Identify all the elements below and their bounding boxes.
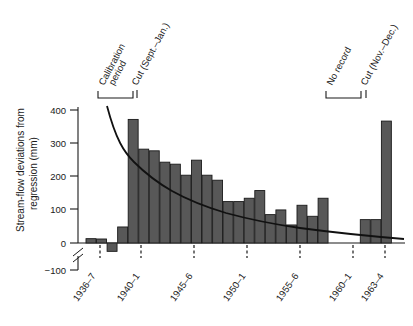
stream-flow-deviation-bar-chart: Stream-flow deviations from regression (…	[0, 0, 413, 326]
y-tick-label-minus100: −100	[45, 265, 66, 276]
bar	[160, 162, 170, 243]
bar	[128, 119, 138, 243]
x-axis-ticks	[100, 245, 385, 258]
x-tick-label-1936-7: 1936–7	[70, 271, 97, 303]
y-tick-label-400: 400	[50, 105, 66, 116]
chart-figure: Stream-flow deviations from regression (…	[0, 0, 413, 326]
y-tick-label-0: 0	[61, 238, 66, 249]
y-axis-title-line1: Stream-flow deviations from	[15, 108, 26, 232]
cut-nov-dec-label: Cut (Nov.–Dec.)	[358, 22, 399, 87]
y-tick-label-100: 100	[50, 204, 66, 215]
bar	[318, 198, 328, 243]
bar	[265, 215, 275, 243]
y-axis-title-line2: regression (mm)	[28, 137, 39, 210]
bar	[202, 175, 212, 243]
x-tick-label-1963-4: 1963–4	[358, 271, 385, 303]
x-tick-label-1945-6: 1945–6	[167, 271, 194, 303]
x-tick-label-1950-1: 1950–1	[220, 271, 247, 303]
bars-group	[86, 119, 391, 251]
y-tick-label-300: 300	[50, 138, 66, 149]
bar	[255, 191, 265, 243]
cut-sept-jan-label: Cut (Sept.–Jan.)	[129, 21, 171, 87]
bar	[360, 220, 370, 243]
bar	[97, 239, 107, 243]
bar	[234, 202, 244, 243]
bar	[107, 243, 117, 251]
no-record-label: No record	[324, 45, 353, 87]
bar	[371, 220, 381, 243]
bar	[86, 239, 96, 243]
bar	[170, 164, 180, 243]
bar	[118, 227, 128, 243]
x-tick-label-1940-1: 1940–1	[114, 271, 141, 303]
x-tick-label-1955-6: 1955–6	[273, 271, 300, 303]
calibration-period-bracket	[98, 91, 133, 98]
bar	[149, 151, 159, 243]
bar	[181, 175, 191, 243]
y-axis-ticks	[70, 110, 78, 270]
no-record-bracket	[326, 91, 361, 98]
bar	[297, 205, 307, 243]
bar	[381, 121, 391, 243]
bar	[223, 202, 233, 243]
bar	[139, 149, 149, 243]
y-tick-label-200: 200	[50, 171, 66, 182]
x-tick-label-1960-1: 1960–1	[326, 271, 353, 303]
bar	[244, 198, 254, 243]
